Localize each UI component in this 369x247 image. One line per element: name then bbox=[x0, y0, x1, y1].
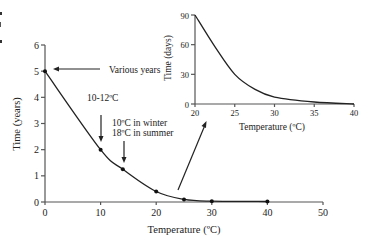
annotation-text: 10ºC in winter bbox=[112, 118, 168, 128]
main-x-ticks: 01020304050 bbox=[43, 202, 329, 218]
data-point bbox=[121, 167, 125, 171]
data-point bbox=[99, 148, 103, 152]
y-tick-label: 2 bbox=[34, 144, 39, 155]
y-tick-label: 30 bbox=[181, 70, 190, 80]
inset-x-ticks: 2025303540 bbox=[191, 104, 359, 118]
x-tick-label: 30 bbox=[207, 207, 217, 218]
y-tick-label: 4 bbox=[34, 92, 39, 103]
x-tick-label: 30 bbox=[270, 108, 279, 118]
arrowhead-icon bbox=[202, 121, 207, 128]
y-tick-label: 60 bbox=[181, 40, 190, 50]
edge-marks bbox=[0, 12, 2, 43]
x-tick-label: 10 bbox=[96, 207, 106, 218]
annotation-arrow bbox=[178, 125, 205, 190]
x-tick-label: 35 bbox=[310, 108, 319, 118]
y-tick-label: 1 bbox=[34, 170, 39, 181]
y-tick-label: 5 bbox=[34, 66, 39, 77]
x-tick-label: 20 bbox=[191, 108, 200, 118]
annotation-text: Various years bbox=[109, 65, 161, 75]
data-point bbox=[265, 199, 269, 203]
x-tick-label: 25 bbox=[231, 108, 240, 118]
y-tick-label: 0 bbox=[34, 197, 39, 208]
edge-mark bbox=[0, 12, 2, 15]
annotation-text: 10-12ºC bbox=[87, 93, 118, 103]
x-tick-label: 0 bbox=[43, 207, 48, 218]
x-tick-label: 40 bbox=[350, 108, 359, 118]
data-point bbox=[154, 190, 158, 194]
data-point bbox=[43, 69, 47, 73]
inset-y-ticks: 0306090 bbox=[181, 11, 196, 110]
data-point bbox=[182, 197, 186, 201]
annotation-text: 18ºC in summer bbox=[112, 128, 174, 138]
x-tick-label: 20 bbox=[151, 207, 161, 218]
arrowhead-icon bbox=[122, 157, 127, 163]
inset-pointer-arrow bbox=[178, 121, 207, 190]
y-tick-label: 90 bbox=[181, 11, 190, 21]
x-tick-label: 40 bbox=[262, 207, 272, 218]
main-y-axis-label: Time (years) bbox=[11, 97, 23, 151]
inset-y-axis-label: Time (days) bbox=[163, 35, 174, 81]
edge-mark bbox=[0, 22, 1, 27]
x-tick-label: 50 bbox=[318, 207, 328, 218]
annotation-winter-summer: 10ºC in winter 18ºC in summer bbox=[112, 118, 174, 163]
inset-chart: 0306090 2025303540 Temperature (ºC) Time… bbox=[163, 11, 358, 134]
data-point bbox=[210, 199, 214, 203]
edge-mark bbox=[0, 40, 2, 43]
main-x-axis-label: Temperature (ºC) bbox=[148, 224, 221, 236]
y-tick-label: 6 bbox=[34, 40, 39, 51]
arrowhead-icon bbox=[99, 136, 104, 142]
inset-x-axis-label: Temperature (ºC) bbox=[239, 122, 305, 133]
chart-figure: 0123456 01020304050 Temperature (ºC) Tim… bbox=[0, 0, 369, 247]
inset-series-line bbox=[195, 15, 354, 104]
y-tick-label: 0 bbox=[185, 100, 189, 110]
annotation-various-years: Various years bbox=[53, 65, 161, 75]
y-tick-label: 3 bbox=[34, 118, 39, 129]
main-y-ticks: 0123456 bbox=[34, 40, 45, 208]
arrowhead-icon bbox=[53, 67, 59, 72]
